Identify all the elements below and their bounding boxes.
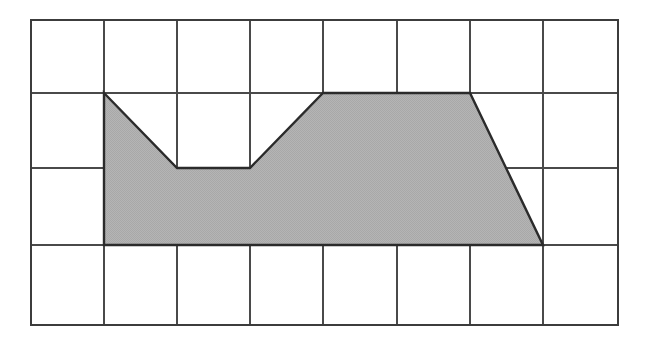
figure-root: [0, 0, 651, 337]
grid-polygon-figure: [0, 0, 651, 337]
